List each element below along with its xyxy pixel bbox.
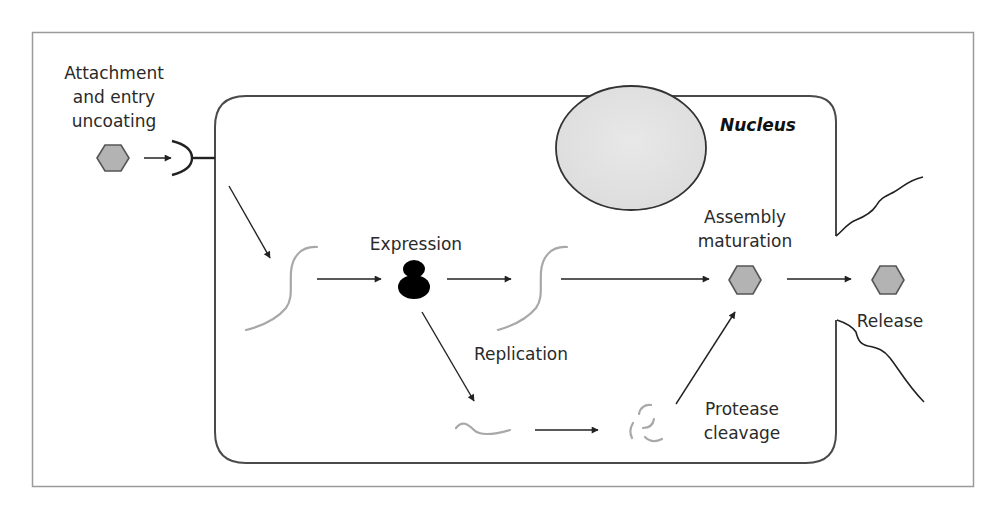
arrow-entry [229,186,270,258]
label-attachment-line3: uncoating [62,109,166,133]
membrane-rupture-top [836,177,923,236]
diagram-canvas: Attachment and entry uncoating Nucleus E… [0,0,1000,514]
polyprotein-strand [456,424,510,434]
receptor-icon [172,141,192,175]
cleaved-protein-icon [631,405,662,441]
label-nucleus: Nucleus [718,113,798,137]
label-assembly-line1: Assembly [692,205,798,229]
label-replication: Replication [466,342,576,366]
ribosome-icon [398,260,430,299]
figure-frame [33,33,974,487]
label-assembly: Assembly maturation [692,205,798,253]
label-protease-line2: cleavage [700,421,784,445]
label-protease-line1: Protease [700,397,784,421]
arrow-cleavage-to-assembly [676,312,735,404]
label-attachment-line2: and entry [62,85,166,109]
virion-assembled-icon [729,266,761,294]
label-assembly-line2: maturation [692,229,798,253]
label-attachment-line1: Attachment [62,61,166,85]
virion-released-icon [872,266,904,294]
label-release: Release [850,309,930,333]
virion-outside-icon [97,145,129,171]
genome-strand-2 [498,247,567,330]
label-protease: Protease cleavage [700,397,784,445]
label-expression: Expression [358,232,474,256]
nucleus [556,86,706,210]
label-attachment: Attachment and entry uncoating [62,61,166,133]
genome-strand-1 [246,247,317,330]
